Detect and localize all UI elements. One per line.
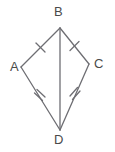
vertex-label-b: B <box>54 5 63 18</box>
vertex-label-c: C <box>94 57 103 70</box>
vertex-label-d: D <box>54 133 63 146</box>
geometry-figure-kite: B A C D <box>0 0 115 152</box>
kite-diagram-svg <box>0 0 115 152</box>
vertex-label-a: A <box>10 60 19 73</box>
